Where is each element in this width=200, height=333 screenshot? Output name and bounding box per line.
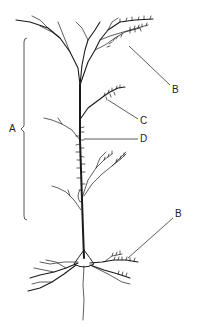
oblique-dendrite-c	[81, 85, 125, 118]
label-a: A	[9, 124, 16, 134]
leader-line-c	[108, 100, 138, 119]
apical-tuft	[16, 16, 153, 85]
leader-line-b-apical	[129, 46, 170, 85]
oblique-dendrite-left-lower	[52, 186, 81, 210]
bracket-a	[21, 38, 27, 220]
label-b-apical: B	[172, 85, 179, 95]
oblique-dendrite-right	[78, 151, 126, 202]
apical-dendrite-trunk	[80, 85, 84, 258]
label-b-basal: B	[175, 209, 182, 219]
leader-line-b-basal	[128, 218, 173, 258]
label-d: D	[140, 134, 147, 144]
neuron-diagram	[0, 0, 200, 333]
oblique-dendrite-left-upper	[44, 118, 80, 140]
neuron-drawing	[16, 16, 153, 320]
axon	[83, 266, 84, 320]
label-c: C	[140, 116, 147, 126]
